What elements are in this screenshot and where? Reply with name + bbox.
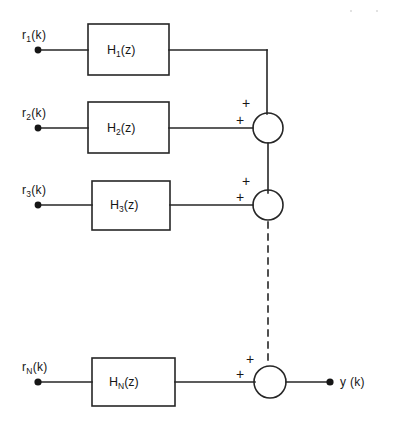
input-dot-1: [35, 47, 42, 54]
input-label-3: r3(k): [22, 184, 46, 199]
summer-n: [254, 366, 286, 398]
block-label-h3: H3(z): [110, 198, 138, 214]
output-label: y (k): [340, 376, 365, 388]
summer-1-sign-left: +: [236, 113, 244, 127]
input-dot-3: [35, 202, 42, 209]
scan-speck: [376, 10, 378, 12]
summer-n-sign-top: +: [246, 352, 254, 366]
summer-n-sign-left: +: [236, 367, 244, 381]
block-diagram-canvas: [0, 0, 395, 432]
summer-1: [253, 113, 283, 143]
input-label-n: rN(k): [22, 361, 48, 376]
summer-1-sign-top: +: [242, 96, 250, 110]
input-dot-2: [35, 125, 42, 132]
scan-speck: [350, 10, 352, 12]
output-dot: [326, 378, 333, 385]
input-label-1: r1(k): [22, 29, 46, 44]
summer-2: [253, 190, 283, 220]
block-label-h2: H2(z): [107, 121, 135, 137]
terminal-dots: [34, 47, 333, 386]
block-label-hn: HN(z): [109, 375, 139, 391]
block-label-h1: H1(z): [107, 43, 135, 59]
input-dot-n: [34, 378, 41, 385]
summer-2-sign-left: +: [236, 190, 244, 204]
input-label-2: r2(k): [22, 107, 46, 122]
summer-2-sign-top: +: [242, 174, 250, 188]
